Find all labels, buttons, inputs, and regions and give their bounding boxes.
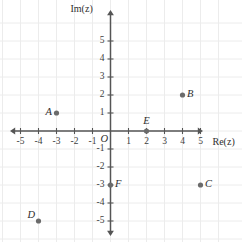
y-tick-label: 3 [100,72,105,82]
data-point-marker [54,110,59,115]
data-point-marker [36,218,41,223]
y-tick-label: -2 [97,162,105,172]
x-tick-label: -3 [53,137,61,147]
plot-canvas [0,0,242,242]
y-tick-label: -4 [97,198,105,208]
x-tick-label: -4 [35,137,43,147]
y-tick-label: 5 [100,36,105,46]
y-tick-label: 1 [100,108,105,118]
y-tick-label: -5 [97,216,105,226]
y-tick-label: -3 [97,180,105,190]
point-label-d: D [27,210,35,221]
x-tick-label: 2 [144,137,149,147]
x-tick-label: 1 [126,137,131,147]
x-tick-label: 4 [180,137,185,147]
point-label-f: F [115,179,121,190]
complex-plane-plot: Im(z) Re(z) O -5-4-3-2-11234554321-1-2-3… [0,0,242,242]
x-tick-label: -2 [71,137,79,147]
x-tick-label: -5 [17,137,25,147]
point-label-c: C [205,179,212,190]
data-point-marker [180,92,185,97]
x-tick-label: 3 [162,137,167,147]
y-tick-label: -1 [97,144,105,154]
y-tick-label: 4 [100,54,105,64]
grid-lines [0,0,242,242]
point-label-b: B [187,89,193,100]
point-label-e: E [143,116,149,127]
data-points [36,92,203,223]
x-tick-label: -1 [89,137,97,147]
x-axis-label: Re(z) [213,137,235,147]
data-point-marker [198,182,203,187]
y-tick-label: 2 [100,90,105,100]
y-axis-label: Im(z) [71,4,93,14]
data-point-marker [108,182,113,187]
data-point-marker [144,128,149,133]
point-label-a: A [46,107,52,118]
x-tick-label: 5 [198,137,203,147]
